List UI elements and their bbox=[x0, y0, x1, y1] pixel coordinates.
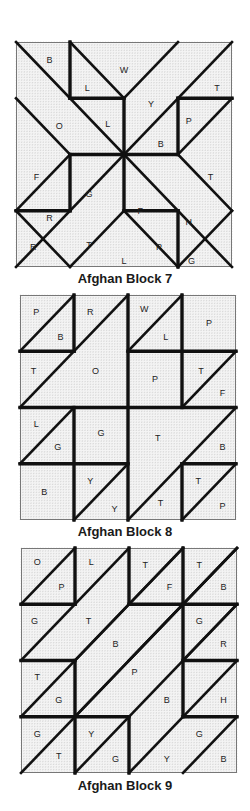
caption-afghan-block-9: Afghan Block 9 bbox=[0, 778, 250, 793]
afghan-block-8: PBRWLPTOPTFLGGTBBYYTTP bbox=[20, 295, 236, 520]
color-key-label: G bbox=[188, 256, 195, 266]
color-key-label: T bbox=[56, 751, 62, 761]
color-key-label: P bbox=[156, 242, 162, 252]
color-key-label: B bbox=[220, 582, 226, 592]
color-key-label: P bbox=[33, 307, 39, 317]
color-key-label: G bbox=[55, 695, 62, 705]
color-key-label: L bbox=[163, 332, 168, 342]
color-key-label: Y bbox=[111, 504, 117, 514]
color-key-label: B bbox=[158, 139, 164, 149]
color-key-label: T bbox=[155, 433, 161, 443]
color-key-label: G bbox=[31, 616, 38, 626]
color-key-label: O bbox=[92, 366, 99, 376]
color-key-label: G bbox=[196, 616, 203, 626]
color-key-label: F bbox=[167, 582, 173, 592]
color-key-label: B bbox=[112, 639, 118, 649]
color-key-label: P bbox=[152, 374, 158, 384]
color-key-label: T bbox=[208, 172, 214, 182]
color-key-label: L bbox=[34, 419, 39, 429]
color-key-label: T bbox=[31, 366, 37, 376]
color-key-label: B bbox=[164, 695, 170, 705]
color-key-label: T bbox=[142, 560, 148, 570]
color-key-label: G bbox=[85, 189, 92, 199]
color-key-label: T bbox=[34, 672, 40, 682]
color-key-label: T bbox=[158, 498, 164, 508]
color-key-label: W bbox=[120, 65, 129, 75]
color-key-label: L bbox=[85, 83, 90, 93]
color-key-label: T bbox=[195, 476, 201, 486]
color-key-label: P bbox=[131, 667, 137, 677]
caption-afghan-block-7: Afghan Block 7 bbox=[0, 271, 250, 286]
color-key-label: O bbox=[34, 557, 41, 567]
color-key-label: T bbox=[214, 83, 220, 93]
color-key-label: F bbox=[137, 206, 143, 216]
color-key-label: L bbox=[121, 256, 126, 266]
color-key-label: G bbox=[196, 729, 203, 739]
color-key-label: T bbox=[196, 560, 202, 570]
afghan-block-7: BWLTYOLPBFTGRFHRTPLG bbox=[16, 42, 232, 267]
color-key-label: G bbox=[112, 754, 119, 764]
color-key-label: T bbox=[86, 240, 92, 250]
color-key-label: B bbox=[219, 442, 225, 452]
color-key-label: B bbox=[46, 55, 52, 65]
color-key-label: R bbox=[30, 242, 37, 252]
color-key-label: Y bbox=[164, 754, 170, 764]
color-key-label: F bbox=[34, 172, 40, 182]
color-key-label: H bbox=[220, 695, 227, 705]
color-key-label: G bbox=[34, 729, 41, 739]
color-key-label: P bbox=[219, 501, 225, 511]
color-key-label: L bbox=[105, 119, 110, 129]
color-key-label: R bbox=[87, 307, 94, 317]
color-key-label: Y bbox=[87, 476, 93, 486]
color-key-label: L bbox=[89, 557, 94, 567]
caption-afghan-block-8: Afghan Block 8 bbox=[0, 524, 250, 539]
quilt-grid-block8: PBRWLPTOPTFLGGTBBYYTTP bbox=[20, 295, 236, 520]
color-key-label: Y bbox=[148, 99, 154, 109]
color-key-label: W bbox=[140, 304, 149, 314]
color-key-label: P bbox=[206, 318, 212, 328]
quilt-grid-block9: OPLTFTBGTBGRTGPBHGTYGYGB bbox=[21, 548, 237, 773]
color-key-label: B bbox=[220, 754, 226, 764]
quilt-grid-block7: BWLTYOLPBFTGRFHRTPLG bbox=[16, 42, 232, 267]
color-key-label: Y bbox=[88, 729, 94, 739]
color-key-label: R bbox=[46, 213, 53, 223]
color-key-label: R bbox=[220, 639, 227, 649]
color-key-label: B bbox=[41, 487, 47, 497]
color-key-label: F bbox=[220, 388, 226, 398]
color-key-label: H bbox=[186, 217, 193, 227]
color-key-label: O bbox=[56, 121, 63, 131]
color-key-label: P bbox=[186, 116, 192, 126]
color-key-label: T bbox=[198, 366, 204, 376]
color-key-label: B bbox=[57, 332, 63, 342]
afghan-block-9: OPLTFTBGTBGRTGPBHGTYGYGB bbox=[21, 548, 237, 773]
color-key-label: P bbox=[58, 582, 64, 592]
color-key-label: G bbox=[54, 442, 61, 452]
color-key-label: G bbox=[97, 428, 104, 438]
color-key-label: T bbox=[86, 616, 92, 626]
